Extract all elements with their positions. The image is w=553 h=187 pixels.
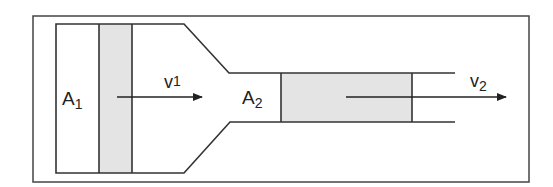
area1-label: A1: [62, 88, 83, 112]
velocity2-label: v2: [470, 71, 487, 94]
diagram-svg: A1 v1 A2 v2: [0, 0, 553, 187]
velocity1-label: v1: [164, 72, 181, 92]
fluid-slab-wide: [99, 24, 132, 173]
area2-label: A2: [242, 87, 263, 111]
pipe-flow-diagram: A1 v1 A2 v2: [0, 0, 553, 187]
